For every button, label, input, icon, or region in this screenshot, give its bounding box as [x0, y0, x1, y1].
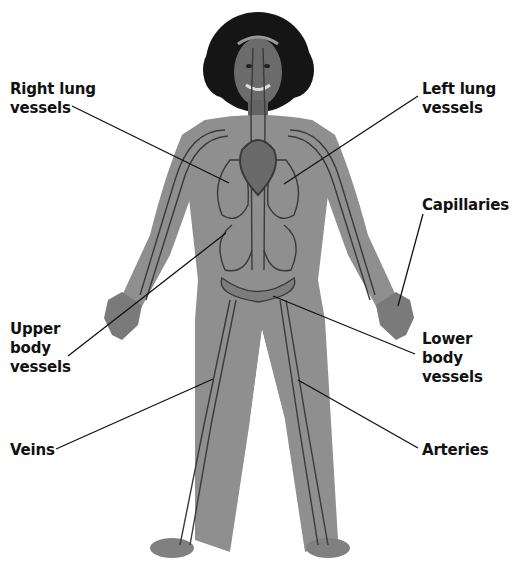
label-veins: Veins: [10, 441, 55, 460]
leader-veins: [56, 379, 213, 449]
label-capillaries: Capillaries: [422, 196, 509, 215]
label-left-lung-vessels: Left lung vessels: [422, 80, 496, 118]
shoes: [150, 538, 350, 558]
leader-capillaries: [398, 214, 423, 306]
label-right-lung-vessels: Right lung vessels: [10, 80, 96, 118]
label-upper-body-vessels: Upper body vessels: [10, 320, 71, 377]
circulatory-system-diagram: Right lung vessels Left lung vessels Cap…: [0, 0, 515, 567]
label-arteries: Arteries: [422, 441, 488, 460]
label-lower-body-vessels: Lower body vessels: [422, 330, 483, 387]
pants: [195, 280, 338, 552]
